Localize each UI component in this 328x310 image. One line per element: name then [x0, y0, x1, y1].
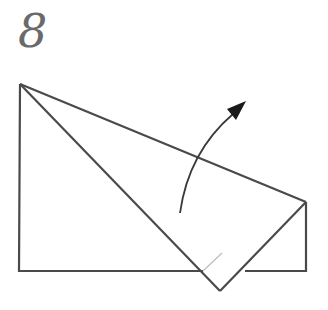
flap-right-edge [220, 202, 306, 291]
inner-crease-line [203, 253, 222, 271]
fold-diagonal [20, 84, 220, 291]
curved-arrow-icon [180, 101, 246, 213]
paper-outline [19, 84, 306, 291]
top-diagonal-edge [20, 84, 306, 202]
origami-fold-diagram [0, 0, 328, 310]
